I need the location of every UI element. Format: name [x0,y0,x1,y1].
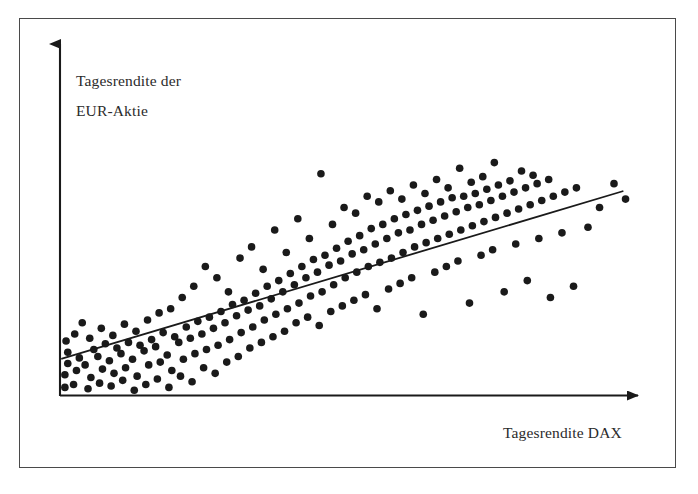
data-point [406,226,414,234]
data-point [340,204,348,212]
data-point [429,216,437,224]
data-point [275,277,283,285]
y-axis-label: Tagesrendite der EUR-Aktie [76,70,181,122]
data-point [87,374,95,382]
data-point [460,193,468,201]
data-point [375,198,383,206]
data-point [211,370,219,378]
data-point [492,214,500,222]
data-point [165,384,173,392]
data-point [385,285,393,293]
data-point [214,341,222,349]
data-point [302,274,310,282]
data-point [106,357,114,365]
data-point [223,358,231,366]
data-point [434,235,442,243]
data-point [178,294,186,302]
data-point [130,386,138,394]
data-point [373,305,381,313]
data-point [163,351,171,359]
data-point [148,336,156,344]
data-point [477,252,485,260]
data-point [350,296,358,304]
data-point [410,181,418,189]
data-point [480,218,488,226]
data-point [307,292,315,300]
data-point [329,221,337,229]
data-point [471,190,479,198]
data-point [337,257,345,265]
data-point [550,193,558,201]
data-point [330,281,338,289]
data-point [310,256,318,264]
data-point [584,223,592,231]
data-point [418,221,426,229]
data-point [213,274,221,282]
data-point [249,323,257,331]
data-point [596,204,604,212]
data-point [152,343,160,351]
data-point [64,360,72,368]
data-point [487,197,495,205]
data-point [198,330,206,338]
data-point [327,308,335,316]
data-point [298,263,306,271]
data-point [191,350,199,358]
data-point [402,211,410,219]
data-point [188,378,196,386]
data-point [287,270,295,278]
x-axis-label: Tagesrendite DAX [503,422,622,444]
data-point [117,350,125,358]
data-point [344,237,352,245]
data-point [109,332,117,340]
data-point [306,235,314,243]
data-point [333,244,341,252]
y-axis-label-line-1: Tagesrendite der [76,70,181,92]
data-point [391,215,399,223]
data-point [94,353,102,361]
data-point [221,319,229,327]
data-point [489,246,497,254]
data-point [396,280,404,288]
data-point [236,254,244,262]
data-point [503,209,511,217]
data-point [144,316,152,324]
data-point [226,336,234,344]
data-point [248,243,256,251]
data-point [518,167,526,175]
data-point [304,313,312,321]
data-point [362,291,370,299]
data-point [441,212,449,220]
data-point [142,381,150,389]
data-point [295,299,303,307]
data-point [167,305,175,313]
data-point [107,382,115,390]
data-point [210,325,218,333]
data-point [187,334,195,342]
data-point [339,302,347,310]
data-point [483,185,491,193]
data-point [233,312,241,320]
data-point [558,229,566,237]
data-point [294,215,302,223]
data-point [282,249,290,257]
data-point [234,353,242,361]
y-axis-label-line-2: EUR-Aktie [76,100,181,122]
data-point [522,184,530,192]
data-point [168,367,176,375]
data-point [121,320,129,328]
data-point [78,319,86,327]
data-point [561,188,569,196]
data-point [81,361,89,369]
data-point [261,316,269,324]
data-point [292,319,300,327]
data-point [512,240,520,248]
data-point [523,277,531,285]
data-point [456,164,464,172]
data-point [547,294,555,302]
data-point [122,364,130,372]
regression-line-layer [62,191,623,358]
regression-line [62,191,623,358]
data-point [383,235,391,243]
data-point [145,361,153,369]
